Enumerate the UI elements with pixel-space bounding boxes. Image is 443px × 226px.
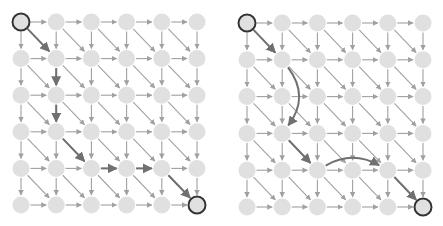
edge-arrow: [98, 175, 120, 198]
grid-node: [309, 125, 326, 142]
edge-arrow: [289, 177, 311, 200]
edge-arrow: [98, 102, 120, 125]
grid-node: [379, 88, 396, 105]
edge-arrow: [168, 139, 190, 162]
grid-node: [379, 162, 396, 179]
edge-arrow: [63, 29, 85, 52]
edge-arrow: [359, 30, 381, 53]
edge-arrow: [289, 30, 311, 53]
grid-node: [118, 87, 135, 104]
grid-node: [13, 87, 30, 104]
edge-arrow: [394, 30, 416, 53]
edge-arrow: [289, 67, 311, 90]
start-node: [239, 15, 256, 32]
grid-node: [13, 123, 30, 140]
grid-node: [309, 88, 326, 105]
grid-node: [189, 160, 206, 177]
edge-arrow: [98, 29, 120, 52]
edge-arrow: [28, 65, 50, 88]
edge-arrow: [133, 29, 155, 52]
grid-node: [239, 162, 256, 179]
edge-arrow: [98, 139, 120, 162]
grid-node: [309, 15, 326, 32]
grid-node: [153, 197, 170, 214]
grid-node: [48, 123, 65, 140]
edge-arrow: [254, 67, 276, 90]
grid-node: [274, 125, 291, 142]
grid-node: [415, 15, 432, 32]
grid-node: [309, 51, 326, 68]
edge-arrow: [28, 175, 50, 198]
grid-node: [274, 51, 291, 68]
path-edge: [254, 30, 276, 53]
grid-node: [344, 199, 361, 216]
grid-node: [344, 15, 361, 32]
grid-node: [83, 14, 100, 31]
grid-node: [344, 162, 361, 179]
grid-node: [415, 51, 432, 68]
edge-arrow: [324, 177, 346, 200]
edge-arrow: [63, 102, 85, 125]
path-edge: [394, 177, 416, 200]
grid-node: [83, 87, 100, 104]
grid-node: [379, 15, 396, 32]
grid-node: [48, 160, 65, 177]
grid-node: [344, 51, 361, 68]
edge-arrow: [133, 139, 155, 162]
path-edge: [63, 139, 85, 162]
grid-node: [239, 51, 256, 68]
edge-arrow: [133, 65, 155, 88]
grid-node: [309, 162, 326, 179]
edge-arrow: [133, 102, 155, 125]
edge-arrow: [133, 175, 155, 198]
grid-node: [48, 197, 65, 214]
edge-arrow: [168, 65, 190, 88]
grid-node: [118, 123, 135, 140]
edge-arrow: [324, 30, 346, 53]
grid-node: [239, 199, 256, 216]
grid-path-diagram: [0, 0, 443, 226]
grid-node: [118, 50, 135, 67]
grid-node: [118, 14, 135, 31]
edge-arrow: [28, 102, 50, 125]
grid-node: [415, 88, 432, 105]
grid-node: [189, 50, 206, 67]
start-node: [13, 14, 30, 31]
grid-node: [379, 125, 396, 142]
grid-node: [118, 197, 135, 214]
grid-node: [153, 87, 170, 104]
grid-node: [239, 125, 256, 142]
edge-arrow: [324, 103, 346, 126]
grid-node: [189, 87, 206, 104]
grid-node: [118, 160, 135, 177]
edge-arrow: [254, 103, 276, 126]
grid-node: [379, 199, 396, 216]
edge-arrow: [63, 175, 85, 198]
grid-node: [153, 50, 170, 67]
grid-node: [48, 50, 65, 67]
grid-node: [153, 14, 170, 31]
grid-node: [48, 14, 65, 31]
grid-node: [83, 160, 100, 177]
path-edge: [168, 175, 190, 198]
edge-arrow: [324, 67, 346, 90]
grid-node: [309, 199, 326, 216]
edge-arrow: [254, 140, 276, 163]
edge-arrow: [359, 103, 381, 126]
grid-node: [274, 162, 291, 179]
grid-node: [189, 14, 206, 31]
edge-arrow: [28, 139, 50, 162]
end-node: [189, 197, 206, 214]
grid-right: [239, 15, 432, 216]
grid-node: [153, 123, 170, 140]
grid-node: [13, 50, 30, 67]
grid-node: [13, 197, 30, 214]
end-node: [415, 199, 432, 216]
edge-arrow: [359, 177, 381, 200]
edge-arrow: [98, 65, 120, 88]
grid-node: [83, 197, 100, 214]
grid-node: [153, 160, 170, 177]
grid-node: [415, 125, 432, 142]
grid-node: [83, 123, 100, 140]
edge-arrow: [289, 103, 311, 126]
